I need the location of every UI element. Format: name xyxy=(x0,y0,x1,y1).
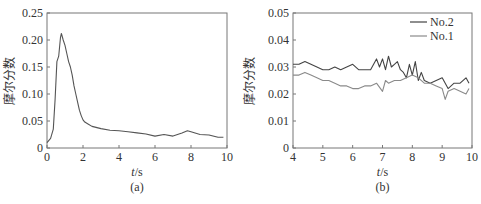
y-tick-label: 0.03 xyxy=(268,60,289,74)
x-tick-label: 9 xyxy=(439,150,445,164)
x-tick-label: 4 xyxy=(290,150,296,164)
x-tick-label: 10 xyxy=(221,150,233,164)
y-tick-label: 0 xyxy=(283,141,289,155)
legend-label: No.1 xyxy=(430,29,454,43)
chart-a-svg: 024681000.050.100.150.200.25t/s摩尔分数(a) xyxy=(0,0,240,204)
x-tick-label: 0 xyxy=(44,150,50,164)
x-tick-label: 6 xyxy=(152,150,158,164)
y-tick-label: 0.04 xyxy=(268,33,289,47)
y-axis-label: 摩尔分数 xyxy=(2,57,17,105)
y-tick-label: 0.01 xyxy=(268,114,289,128)
plot-frame xyxy=(47,13,227,148)
y-tick-label: 0.20 xyxy=(22,33,43,47)
x-tick-label: 4 xyxy=(116,150,122,164)
panel-label: (b) xyxy=(376,180,390,194)
panel-label: (a) xyxy=(130,180,143,194)
x-tick-label: 5 xyxy=(320,150,326,164)
x-tick-label: 8 xyxy=(409,150,415,164)
x-tick-label: 10 xyxy=(466,150,478,164)
series-line-no2 xyxy=(293,56,469,88)
y-tick-label: 0.10 xyxy=(22,87,43,101)
x-tick-label: 8 xyxy=(188,150,194,164)
x-tick-label: 2 xyxy=(80,150,86,164)
chart-panel-a: 024681000.050.100.150.200.25t/s摩尔分数(a) xyxy=(0,0,240,204)
y-tick-label: 0.25 xyxy=(22,6,43,20)
series-line-no1 xyxy=(293,72,469,99)
y-tick-label: 0.05 xyxy=(22,114,43,128)
legend-label: No.2 xyxy=(430,15,454,29)
y-tick-label: 0 xyxy=(37,141,43,155)
y-tick-label: 0.05 xyxy=(268,6,289,20)
x-tick-label: 6 xyxy=(350,150,356,164)
chart-b-svg: 4567891000.010.020.030.040.05t/s摩尔分数(b)N… xyxy=(240,0,481,204)
y-tick-label: 0.15 xyxy=(22,60,43,74)
x-axis-label: t/s xyxy=(131,165,143,179)
y-axis-label: 摩尔分数 xyxy=(242,57,257,105)
y-tick-label: 0.02 xyxy=(268,87,289,101)
series-line-main xyxy=(47,34,223,143)
x-axis-label: t/s xyxy=(377,165,389,179)
chart-panel-b: 4567891000.010.020.030.040.05t/s摩尔分数(b)N… xyxy=(240,0,481,204)
x-tick-label: 7 xyxy=(380,150,386,164)
